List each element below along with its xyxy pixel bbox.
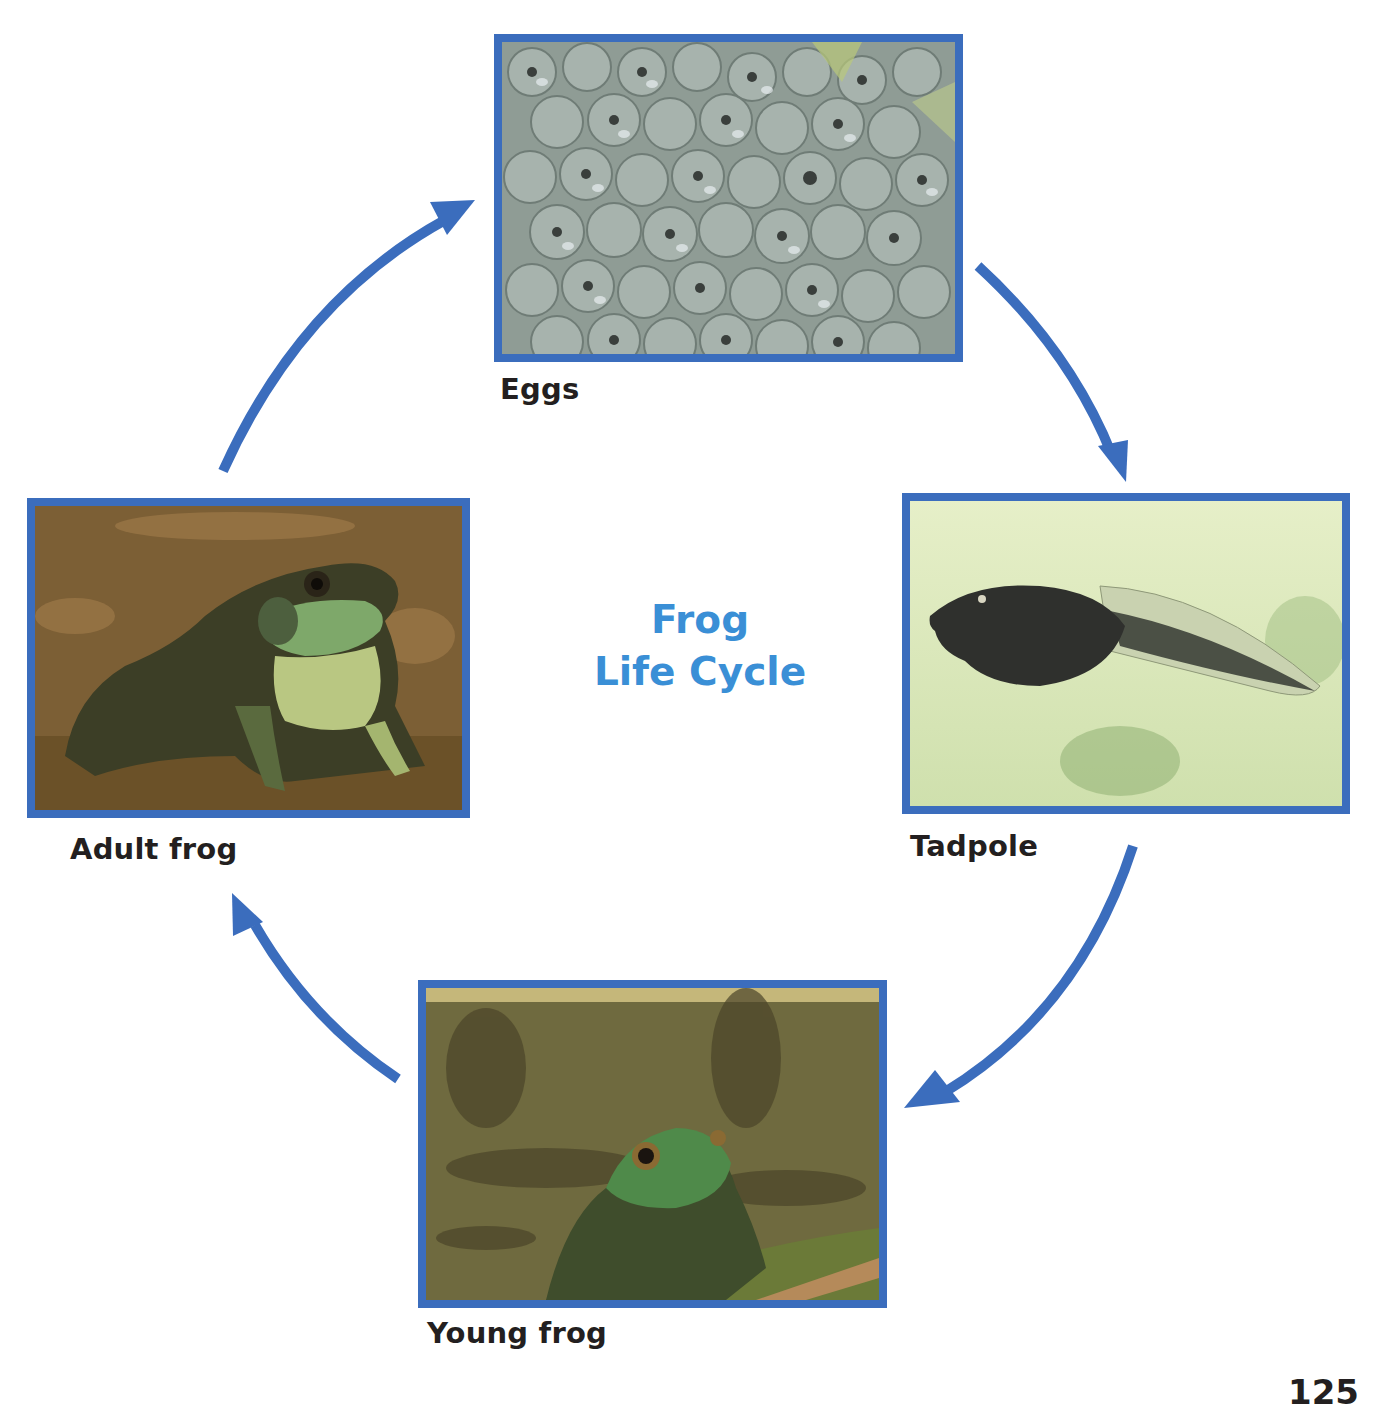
tadpole-image-icon [910, 501, 1342, 806]
arrow-young-frog-to-adult-frog-icon [232, 893, 398, 1079]
eggs-label: Eggs [500, 372, 579, 406]
page-number: 125 [1288, 1372, 1359, 1408]
arrow-eggs-to-tadpole-icon [978, 266, 1128, 482]
young-frog-photo [418, 980, 887, 1308]
adult-frog-photo [27, 498, 470, 818]
tadpole-label: Tadpole [910, 829, 1038, 863]
eggs-photo [494, 34, 963, 362]
title-line-2: Life Cycle [540, 646, 860, 698]
adult-frog-label: Adult frog [70, 832, 237, 866]
arrow-tadpole-to-young-frog-icon [904, 846, 1133, 1108]
young-frog-image-icon [426, 988, 879, 1300]
young-frog-label: Young frog [427, 1316, 607, 1350]
adult-frog-image-icon [35, 506, 462, 810]
tadpole-photo [902, 493, 1350, 814]
diagram-title: Frog Life Cycle [540, 594, 860, 698]
title-line-1: Frog [540, 594, 860, 646]
frog-eggs-image-icon [502, 42, 955, 354]
arrow-adult-frog-to-eggs-icon [223, 200, 475, 471]
